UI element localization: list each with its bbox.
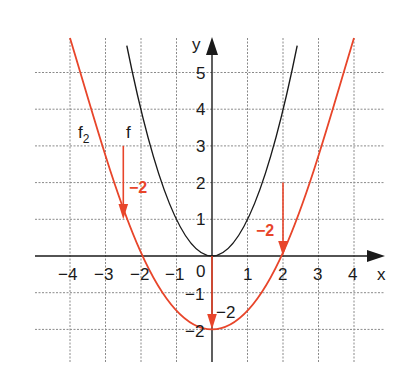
origin-label: 0 bbox=[196, 262, 205, 281]
function-graph: y x −4 −3 −2 −1 0 1 2 3 4 1 2 3 4 5 −1 −… bbox=[0, 0, 413, 374]
arrow-down-icon bbox=[278, 241, 288, 256]
y-axis-arrow-icon bbox=[206, 37, 218, 55]
label-f: f bbox=[126, 123, 131, 142]
x-tick-label: −2 bbox=[130, 265, 149, 284]
y-tick-label: 3 bbox=[196, 137, 205, 156]
y-tick-label: 5 bbox=[196, 64, 205, 83]
x-tick-label: 4 bbox=[348, 265, 357, 284]
x-tick-label: −1 bbox=[165, 265, 184, 284]
x-axis-arrow-icon bbox=[367, 250, 385, 262]
x-tick-label: −3 bbox=[94, 265, 113, 284]
x-tick-label: 1 bbox=[243, 265, 252, 284]
y-tick-label: 2 bbox=[196, 174, 205, 193]
grid bbox=[35, 38, 385, 362]
x-axis-label: x bbox=[377, 265, 386, 284]
x-tick-label: 3 bbox=[313, 265, 322, 284]
x-tick-label: 2 bbox=[278, 265, 287, 284]
shift-label-right: −2 bbox=[256, 222, 274, 239]
x-tick-label: −4 bbox=[58, 265, 77, 284]
y-tick-label: 4 bbox=[196, 100, 205, 119]
label-f2: f2 bbox=[78, 123, 90, 146]
axes bbox=[35, 50, 372, 362]
y-tick-label: −2 bbox=[185, 322, 204, 341]
shift-label-middle: −2 bbox=[216, 303, 235, 322]
y-tick-label: −1 bbox=[185, 285, 204, 304]
y-axis-label: y bbox=[192, 35, 201, 54]
y-tick-label: 1 bbox=[196, 210, 205, 229]
shift-label-left: −2 bbox=[129, 179, 147, 196]
